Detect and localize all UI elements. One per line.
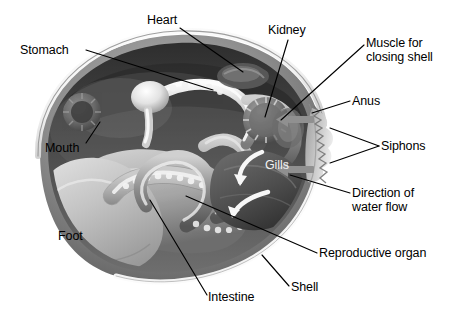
label-gills: Gills (265, 159, 289, 173)
label-reproductive-organ: Reproductive organ (319, 247, 426, 261)
label-shell: Shell (291, 281, 318, 295)
leader-siphons-b (330, 146, 379, 163)
label-siphons: Siphons (381, 140, 425, 154)
label-intestine: Intestine (208, 291, 254, 305)
label-kidney: Kidney (268, 24, 306, 38)
label-stomach: Stomach (20, 44, 69, 58)
label-mouth: Mouth (45, 142, 79, 156)
leader-shell (262, 255, 289, 286)
label-heart: Heart (147, 14, 177, 28)
anatomy-figure: Stomach Heart Kidney Muscle for closing … (0, 0, 454, 315)
label-muscle-for-closing-shell: Muscle for closing shell (366, 37, 433, 64)
label-direction-of-water-flow: Direction of water flow (352, 187, 414, 214)
label-foot: Foot (58, 230, 83, 244)
label-anus: Anus (352, 95, 380, 109)
leader-siphons-a (330, 128, 379, 146)
